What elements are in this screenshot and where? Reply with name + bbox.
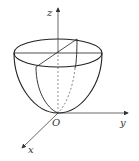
meridian-back-hidden xyxy=(58,68,75,113)
meridian-front xyxy=(36,67,58,113)
origin-label: O xyxy=(52,117,60,128)
paraboloid-diagram: z y x O xyxy=(0,0,139,161)
meridian-back-upper xyxy=(75,39,77,68)
x-axis-label: x xyxy=(28,144,34,155)
y-axis-label: y xyxy=(119,117,126,128)
z-axis-label: z xyxy=(46,7,53,18)
